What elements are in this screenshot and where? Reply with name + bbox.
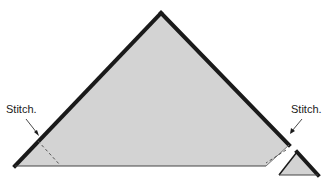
- large-triangle: [15, 13, 289, 166]
- quilt-triangle-diagram: [0, 0, 330, 184]
- right-arrow-icon: [290, 119, 302, 134]
- left-stitch-label: Stitch.: [6, 103, 37, 115]
- left-arrow-icon: [26, 119, 39, 136]
- right-stitch-label: Stitch.: [291, 103, 322, 115]
